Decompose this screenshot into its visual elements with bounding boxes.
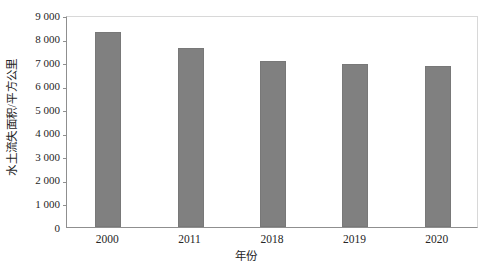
x-tick-label: 2019 [319,232,389,246]
bar [178,48,204,227]
y-tick-mark [63,182,67,183]
y-tick-label: 4 000 [35,128,60,139]
x-tick-label: 2018 [237,232,307,246]
y-tick-label: 5 000 [35,105,60,116]
bar [260,61,286,227]
bar [95,32,121,228]
y-tick-label: 7 000 [35,58,60,69]
y-axis-title-text: 水土流失面积/平方公里 [3,58,19,176]
y-tick-mark [63,205,67,206]
y-tick-label: 6 000 [35,81,60,92]
x-tick-label: 2020 [402,232,472,246]
bar [342,64,368,227]
x-tick-label: 2011 [155,232,225,246]
y-tick-label: 9 000 [35,11,60,22]
y-tick-label: 3 000 [35,152,60,163]
y-tick-mark [63,135,67,136]
y-tick-mark [63,41,67,42]
y-tick-label: 1 000 [35,199,60,210]
plot-area [66,16,478,228]
bars-layer [67,17,477,227]
y-tick-mark [63,111,67,112]
y-tick-mark [63,158,67,159]
y-tick-label: 0 [55,223,61,234]
y-tick-label: 8 000 [35,34,60,45]
bar [425,66,451,227]
x-axis-title: 年份 [0,249,492,263]
y-axis-tick-labels: 01 0002 0003 0004 0005 0006 0007 0008 00… [22,0,64,277]
x-axis-tick-labels: 20002011201820192020 [66,232,478,248]
bar-chart: 水土流失面积/平方公里 01 0002 0003 0004 0005 0006 … [0,0,492,277]
y-tick-mark [63,64,67,65]
y-tick-mark [63,88,67,89]
y-tick-label: 2 000 [35,175,60,186]
x-tick-label: 2000 [72,232,142,246]
y-tick-mark [63,17,67,18]
y-axis-title: 水土流失面积/平方公里 [0,0,22,234]
